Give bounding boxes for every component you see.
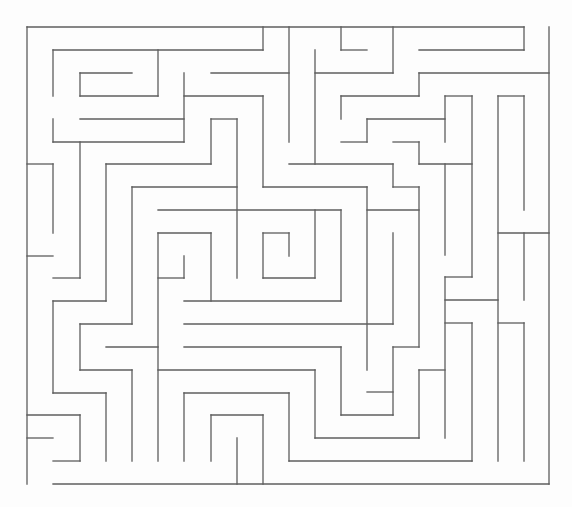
maze-background xyxy=(0,0,572,507)
maze-canvas xyxy=(0,0,572,507)
